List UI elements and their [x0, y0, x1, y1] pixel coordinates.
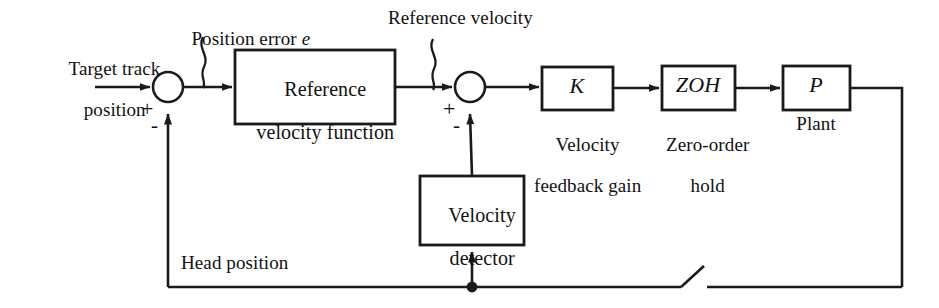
label-reference-velocity: Reference velocity [388, 8, 533, 29]
velocity-error-sum-minus-sign: - [453, 115, 460, 136]
block-velocity-feedback-gain-label: K [537, 74, 617, 98]
label-target-track-position-line2: position [84, 99, 146, 120]
block-vd-line2: detector [450, 247, 515, 269]
caption-zoh-line1: Zero-order [666, 134, 749, 155]
label-head-position: Head position [181, 253, 288, 274]
block-plant-label: P [776, 73, 856, 97]
position-error-sum-minus-sign: - [151, 115, 158, 136]
caption-plant: Plant [746, 114, 886, 135]
sampler-switch-blade [681, 266, 704, 287]
velocity-error-sum-circle [455, 72, 485, 102]
block-rvf-line2: velocity function [256, 121, 394, 143]
block-velocity-detector-label: Velocity detector [417, 183, 527, 291]
leader-squiggle-reference-velocity [431, 39, 435, 90]
caption-zoh-line2: hold [691, 175, 725, 196]
block-zero-order-hold-label: ZOH [653, 73, 743, 97]
label-position-error-text: Position error [191, 28, 301, 49]
block-rvf-line1: Reference [284, 78, 366, 100]
label-target-track-position-line1: Target track [69, 58, 161, 79]
caption-gain-line1: Velocity [555, 134, 619, 155]
label-target-track-position: Target track position [50, 38, 161, 141]
block-vd-line1: Velocity [448, 204, 515, 226]
label-position-error-symbol: e [302, 28, 311, 49]
velocity-feedback-line [470, 114, 472, 176]
control-block-diagram: Target track position Position error e R… [0, 0, 939, 308]
block-reference-velocity-function-label: Reference velocity function [235, 57, 395, 165]
